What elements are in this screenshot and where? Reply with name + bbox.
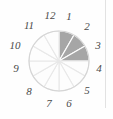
hour-label-4: 4	[96, 63, 102, 74]
hour-label-9: 9	[13, 63, 19, 74]
hour-label-2: 2	[84, 21, 90, 32]
hour-label-11: 11	[24, 20, 34, 31]
hour-label-12: 12	[45, 10, 56, 21]
hour-label-10: 10	[10, 40, 21, 51]
hour-label-3: 3	[95, 40, 101, 51]
figure-canvas: 12 1 2 3 4 5 6 7 8 9 10 11	[0, 0, 113, 119]
hour-label-1: 1	[66, 11, 72, 22]
clock-sectors-svg	[0, 0, 113, 119]
clock-fraction-diagram: 12 1 2 3 4 5 6 7 8 9 10 11	[0, 0, 113, 119]
hour-label-7: 7	[46, 98, 52, 109]
hour-label-6: 6	[66, 98, 72, 109]
hour-label-5: 5	[84, 85, 90, 96]
hour-label-8: 8	[26, 86, 32, 97]
